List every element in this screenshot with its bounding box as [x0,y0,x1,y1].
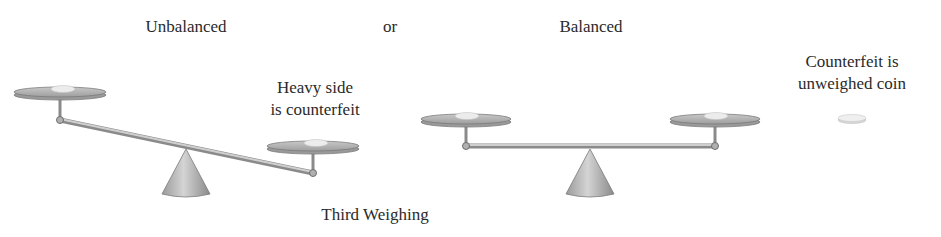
fulcrum-cone [162,149,210,197]
coin [51,86,75,93]
unweighed-coin [838,115,866,124]
balanced-scale [421,113,760,198]
unbalanced-scale [14,86,359,198]
coin [704,113,728,120]
fulcrum-cone [566,149,614,197]
scales-figure [0,0,941,237]
coin [304,140,328,147]
coin [455,113,479,120]
